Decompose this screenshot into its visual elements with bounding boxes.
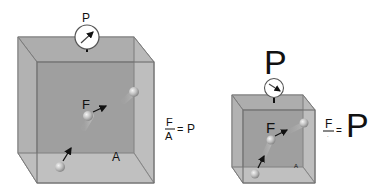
equation-result: P — [346, 106, 369, 144]
equation-equals: = — [177, 123, 183, 135]
left-box-front-face — [37, 62, 154, 183]
gas-molecule — [83, 111, 93, 121]
equation-denominator: A — [165, 130, 173, 142]
gas-molecule — [300, 119, 309, 128]
equation-equals: = — [336, 125, 342, 136]
gas-molecule — [129, 87, 139, 97]
pressure-diagram: F A P F A = P F A P — [0, 0, 388, 196]
equation-result: P — [187, 122, 195, 136]
gas-molecule — [55, 162, 65, 172]
right-area-label: A — [294, 163, 298, 169]
left-equation: F A = P — [165, 116, 195, 142]
gauge-dial-icon — [265, 79, 284, 98]
right-equation: F · = P — [323, 106, 369, 144]
right-pressure-label: P — [264, 43, 287, 81]
equation-numerator: F — [166, 116, 173, 128]
gas-molecule — [267, 136, 276, 145]
left-force-label: F — [82, 97, 90, 112]
left-area-label: A — [112, 150, 120, 164]
left-pressure-label: P — [82, 11, 90, 25]
right-force-label: F — [266, 119, 275, 136]
equation-numerator: F — [325, 117, 332, 131]
gas-molecule — [251, 170, 260, 179]
equation-denominator: · — [327, 133, 329, 139]
